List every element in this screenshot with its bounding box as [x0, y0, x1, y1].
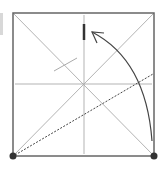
reference-mark	[54, 58, 77, 71]
fold-arrow	[92, 32, 152, 141]
dot-bottom-left	[10, 153, 17, 160]
origami-diagram	[0, 0, 165, 175]
dot-bottom-right	[151, 153, 158, 160]
